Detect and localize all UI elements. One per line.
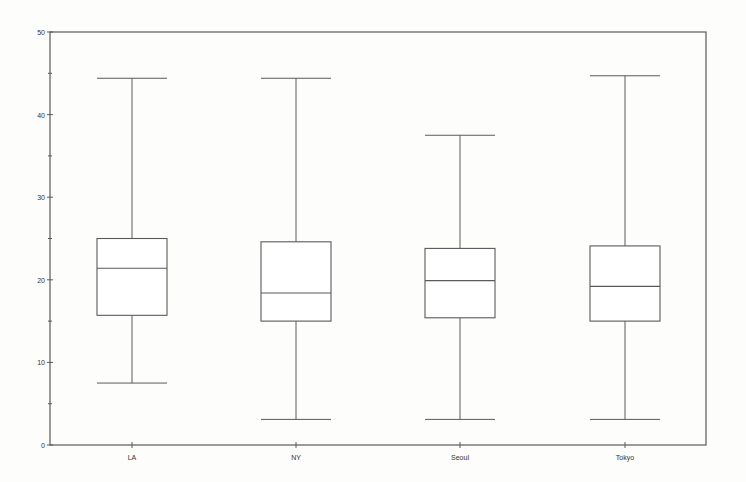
x-tick-label: NY [291,454,301,461]
box-la [97,78,167,383]
iqr-box [425,248,495,317]
box-seoul [425,135,495,419]
box-series [97,76,660,420]
iqr-box [590,246,660,321]
chart-canvas: 01020304050 LANYSeoulTokyo [0,0,746,482]
iqr-box [261,242,331,321]
y-tick-label: 50 [37,29,45,36]
y-axis: 01020304050 [37,29,53,449]
y-tick-label: 40 [37,112,45,119]
y-tick-label: 20 [37,277,45,284]
y-tick-label: 30 [37,194,45,201]
box-plot-chart: 01020304050 LANYSeoulTokyo [0,0,746,482]
y-tick-label: 0 [41,442,45,449]
x-tick-label: Tokyo [616,454,634,462]
x-tick-label: Seoul [451,454,469,461]
iqr-box [97,239,167,316]
x-tick-label: LA [128,454,137,461]
y-tick-label: 10 [37,359,45,366]
box-ny [261,78,331,419]
box-tokyo [590,76,660,420]
